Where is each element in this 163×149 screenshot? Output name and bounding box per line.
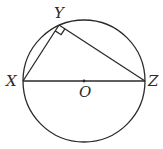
chord-yz bbox=[59, 25, 145, 81]
center-dot bbox=[83, 80, 86, 83]
label-o: O bbox=[79, 83, 91, 101]
label-x: X bbox=[5, 72, 18, 90]
label-y: Y bbox=[54, 4, 66, 22]
label-z: Z bbox=[147, 72, 159, 90]
chord-xy bbox=[23, 25, 59, 81]
circle-diagram: Y X Z O bbox=[0, 0, 163, 149]
